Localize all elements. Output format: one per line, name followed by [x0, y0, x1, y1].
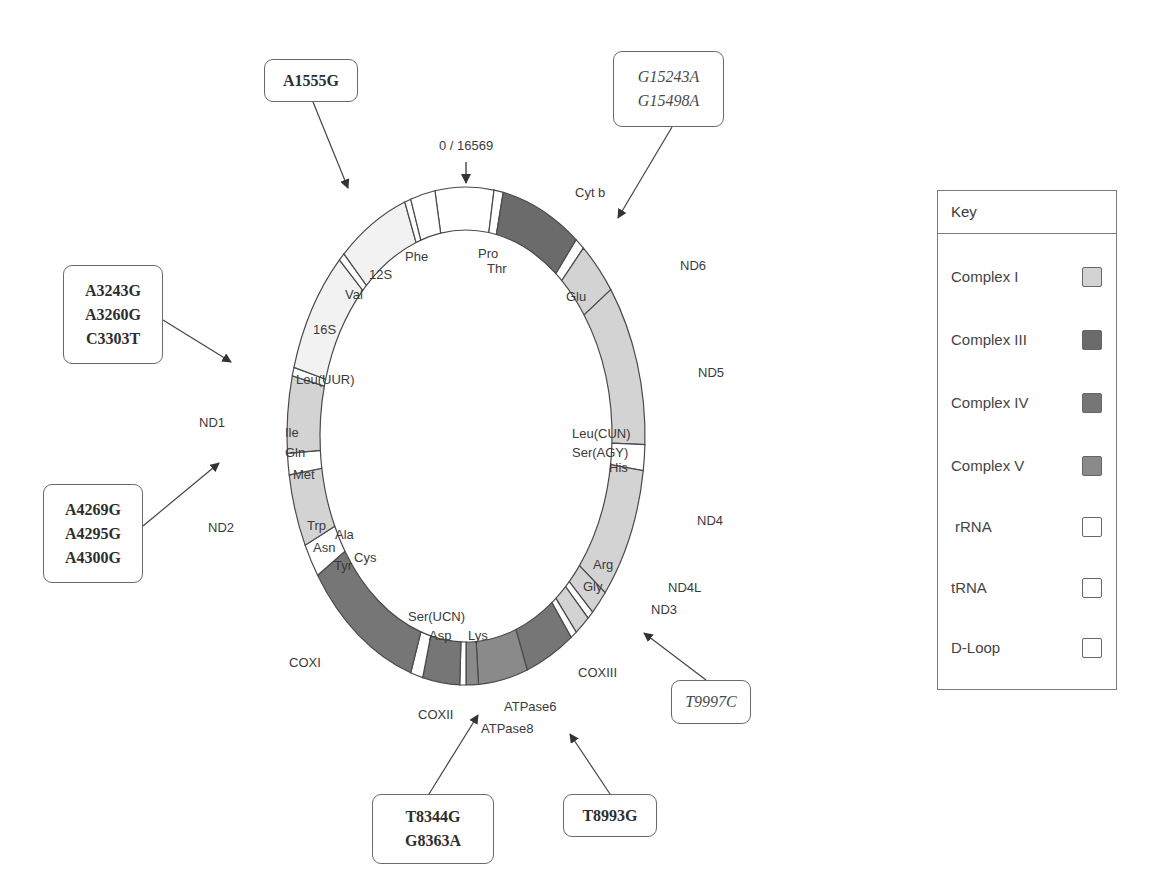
label-leu-cun: Leu(CUN) [572, 426, 631, 441]
label-ile: Ile [285, 425, 299, 440]
legend: Key Complex I Complex III Complex IV Com… [937, 190, 1117, 690]
ring-segment [435, 187, 494, 233]
label-nd3: ND3 [651, 602, 677, 617]
mutation-label: G15243A [614, 65, 723, 89]
mutation-box-a1555g: A1555G [264, 59, 358, 102]
label-trp: Trp [307, 518, 326, 533]
label-nd5: ND5 [698, 365, 724, 380]
label-asn: Asn [313, 540, 335, 555]
label-phe: Phe [405, 249, 428, 264]
label-pro: Pro [478, 246, 498, 261]
legend-swatch [1082, 456, 1102, 476]
label-lys: Lys [468, 628, 488, 643]
label-nd2: ND2 [208, 520, 234, 535]
legend-item-complex-i: Complex I [951, 267, 1102, 287]
mutation-label: A4300G [44, 546, 142, 570]
legend-item-d-loop: D-Loop [951, 638, 1102, 658]
label-cytb: Cyt b [575, 185, 605, 200]
label-glu: Glu [566, 289, 586, 304]
label-his: His [609, 460, 628, 475]
legend-item-complex-v: Complex V [951, 456, 1102, 476]
label-coxiii: COXIII [578, 665, 617, 680]
legend-label: rRNA [955, 517, 992, 537]
arrow-a1555g-icon [313, 102, 348, 188]
mutation-box-t9997c: T9997C [671, 680, 751, 724]
ring-segment [466, 641, 478, 685]
label-nd4l: ND4L [668, 580, 701, 595]
legend-swatch [1082, 578, 1102, 598]
mutation-label: A3260G [64, 303, 162, 327]
mutation-box-t8344g: T8344G G8363A [372, 794, 494, 864]
mutation-box-t8993g: T8993G [563, 794, 657, 837]
mtdna-map: 0 / 16569 Cyt b ND6 ND5 ND4 ND4L ND3 COX… [0, 0, 1158, 895]
arrow-t8993g-icon [570, 734, 610, 794]
label-ala: Ala [335, 527, 355, 542]
mutation-box-a4269g: A4269G A4295G A4300G [43, 484, 143, 583]
arrow-t9997c-icon [644, 633, 706, 680]
mutation-label: A1555G [265, 69, 357, 93]
label-asp: Asp [429, 628, 451, 643]
mutation-box-a3243g: A3243G A3260G C3303T [63, 265, 163, 364]
label-tyr: Tyr [334, 558, 353, 573]
label-gln: Gln [285, 445, 305, 460]
label-ser-ucn: Ser(UCN) [408, 609, 465, 624]
label-coxii: COXII [418, 707, 453, 722]
legend-label: Complex IV [951, 393, 1029, 413]
legend-item-complex-iv: Complex IV [951, 393, 1102, 413]
label-nd1: ND1 [199, 415, 225, 430]
mutation-label: C3303T [64, 327, 162, 351]
legend-label: D-Loop [951, 638, 1000, 658]
legend-swatch [1082, 330, 1102, 350]
label-cys: Cys [354, 550, 377, 565]
legend-label: Complex V [951, 456, 1024, 476]
legend-swatch [1082, 393, 1102, 413]
label-leu-uur: Leu(UUR) [296, 372, 355, 387]
legend-label: Complex I [951, 267, 1019, 287]
label-val: Val [345, 287, 363, 302]
ring-segment [579, 465, 643, 593]
arrow-a4269g-icon [143, 463, 219, 526]
label-gly: Gly [583, 579, 603, 594]
ring-segment [584, 290, 645, 445]
origin-label: 0 / 16569 [439, 138, 493, 153]
mutation-label: T8993G [564, 804, 656, 828]
label-atpase6: ATPase6 [504, 699, 557, 714]
label-arg: Arg [593, 557, 613, 572]
legend-swatch [1082, 638, 1102, 658]
label-coxi: COXI [289, 655, 321, 670]
label-thr: Thr [487, 261, 507, 276]
mutation-label: G15498A [614, 89, 723, 113]
mutation-label: A3243G [64, 279, 162, 303]
ring-segment [287, 376, 324, 454]
legend-item-rrna: rRNA [951, 517, 1102, 537]
mutation-label: G8363A [373, 829, 493, 853]
legend-item-complex-iii: Complex III [951, 330, 1102, 350]
legend-item-trna: tRNA [951, 578, 1102, 598]
arrow-g15243a-icon [618, 127, 672, 218]
label-atpase8: ATPase8 [481, 721, 534, 736]
arrow-a3243g-icon [163, 320, 231, 362]
mutation-label: T8344G [373, 805, 493, 829]
mutation-box-g15243a: G15243A G15498A [613, 51, 724, 127]
arrow-t8344g-icon [429, 715, 478, 794]
label-nd4: ND4 [697, 513, 723, 528]
legend-label: Complex III [951, 330, 1027, 350]
mutation-label: A4295G [44, 522, 142, 546]
mutation-label: A4269G [44, 498, 142, 522]
legend-swatch [1082, 517, 1102, 537]
label-16s: 16S [313, 322, 336, 337]
legend-title: Key [938, 191, 1116, 234]
mutation-label: T9997C [672, 690, 750, 714]
label-ser-agy: Ser(AGY) [572, 445, 628, 460]
label-met: Met [293, 467, 315, 482]
legend-swatch [1082, 267, 1102, 287]
legend-label: tRNA [951, 578, 987, 598]
label-12s: 12S [369, 267, 392, 282]
label-nd6: ND6 [680, 258, 706, 273]
